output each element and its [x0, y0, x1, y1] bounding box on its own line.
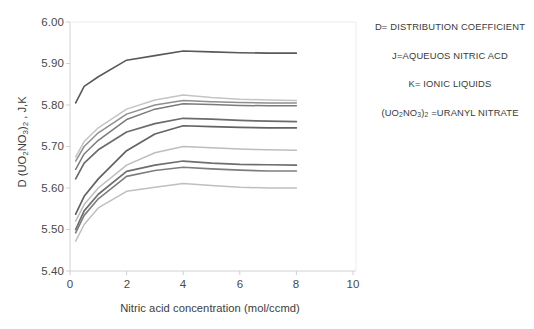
chart-annotations: D= DISTRIBUTION COEFFICIENT J=AQUEUOS NI… [366, 0, 534, 329]
series-line-series-4 [76, 104, 297, 170]
series-line-series-6 [76, 126, 297, 214]
series-line-series-3 [76, 100, 297, 161]
chart-plot-area: 6.00 5.90 5.80 5.70 5.60 5.50 5.40 0 2 4… [0, 0, 366, 329]
annotation-uranyl-nitrate: (UO2NO3)2 =URANYL NITRATE [366, 107, 534, 118]
annotation-distribution-coefficient: D= DISTRIBUTION COEFFICIENT [366, 21, 534, 32]
series-line-series-9 [76, 167, 297, 233]
chart-canvas [0, 0, 366, 329]
series-line-series-10 [76, 183, 297, 241]
annotation-uranyl-nitrate-text: (UO2NO3)2 =URANYL NITRATE [381, 107, 518, 118]
annotation-aqueous-nitric-acid: J=AQUEUOS NITRIC ACD [366, 50, 534, 61]
annotation-ionic-liquids: K= IONIC LIQUIDS [366, 78, 534, 89]
chart-figure: 6.00 5.90 5.80 5.70 5.60 5.50 5.40 0 2 4… [0, 0, 534, 329]
